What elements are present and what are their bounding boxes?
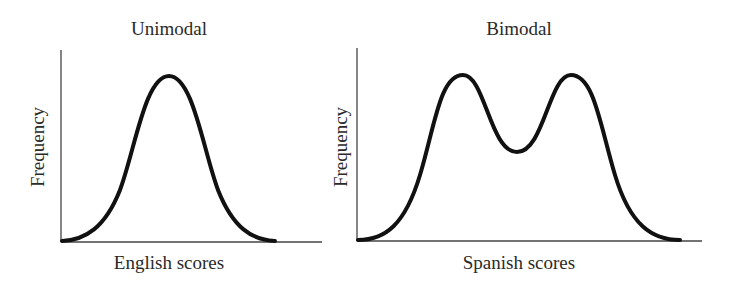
x-axis-label-spanish: Spanish scores	[463, 252, 575, 273]
y-axis-label-frequency-left: Frequency	[27, 106, 48, 187]
chart-title-bimodal: Bimodal	[486, 18, 551, 39]
bimodal-curve	[358, 75, 680, 240]
y-axis-label-frequency-right: Frequency	[330, 106, 351, 187]
unimodal-chart: Unimodal English scores Frequency	[27, 18, 322, 273]
unimodal-curve	[62, 76, 275, 241]
figure: Unimodal English scores Frequency Bimoda…	[0, 0, 731, 287]
chart-title-unimodal: Unimodal	[131, 18, 207, 39]
bimodal-chart: Bimodal Spanish scores Frequency	[330, 18, 702, 273]
x-axis-label-english: English scores	[114, 252, 224, 273]
